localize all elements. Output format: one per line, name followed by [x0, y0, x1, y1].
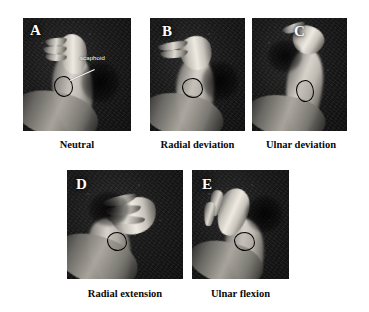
shadow-mass-c [268, 40, 302, 72]
scaphoid-outline-c [296, 80, 314, 102]
shadow-mass-b [202, 62, 238, 100]
shadow-mass-a [81, 62, 119, 102]
caption-panel-d: Radial extension [62, 288, 188, 300]
panel-letter-c: C [294, 24, 305, 39]
panel-letter-b: B [162, 24, 172, 39]
scaphoid-outline-b [182, 78, 203, 98]
caption-panel-b: Radial deviation [141, 139, 254, 151]
caption-panel-a: Neutral [23, 139, 131, 151]
panel-letter-e: E [202, 177, 212, 192]
panel-e-image: E [192, 170, 289, 279]
figure-plate: A scaphoid Neutral B Radial deviation C … [0, 0, 369, 312]
shadow-mass-e [246, 196, 282, 232]
scaphoid-outline-d [107, 232, 127, 251]
scaphoid-outline-e [234, 232, 255, 251]
caption-panel-c: Ulnar deviation [248, 139, 354, 151]
panel-d-image: D [67, 170, 183, 279]
panel-a-image: A scaphoid [23, 18, 131, 131]
panel-letter-d: D [76, 177, 87, 192]
panel-letter-a: A [30, 23, 41, 38]
panel-b-image: B [150, 18, 245, 131]
shadow-mass-d [89, 192, 129, 226]
scaphoid-label-a: scaphoid [80, 55, 105, 61]
caption-panel-e: Ulnar flexion [192, 288, 289, 300]
panel-c-image: C [252, 18, 347, 131]
